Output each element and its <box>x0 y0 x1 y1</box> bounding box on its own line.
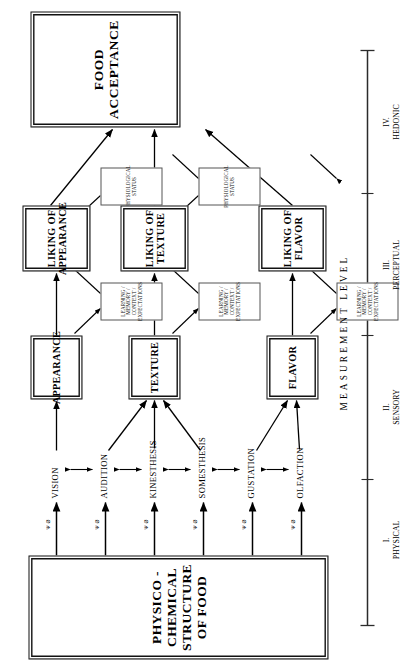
hedonic-line-1: LIKING OF <box>143 209 154 266</box>
outcome-line-1: FOOD <box>90 48 105 89</box>
modifier-line-1: LEARNING / MEMORY / <box>217 286 229 316</box>
hedonic-box-liking-flavor: LIKING OF FLAVOR <box>258 205 326 271</box>
modifier-box-learning-texture: LEARNING / MEMORY / CONTEXT / EXPECTATIO… <box>198 282 260 320</box>
outcome-box-food-acceptance: FOOD ACCEPTANCE <box>30 11 180 127</box>
modifier-line-1: PHYSIOLOGICAL <box>124 165 130 208</box>
vision-symbol: Ψ Ø <box>44 519 50 529</box>
measurement-level-title: MEASUREMENT LEVEL <box>338 254 348 410</box>
hedonic-label-liking-texture: LIKING OF TEXTURE <box>143 207 166 268</box>
gustation-symbol: Ψ Ø <box>240 519 246 529</box>
sense-label-olfaction: OLFACTION <box>294 447 304 498</box>
hedonic-line-1: LIKING OF <box>45 209 56 266</box>
modifier-label-learning-texture: LEARNING / MEMORY / CONTEXT / EXPECTATIO… <box>218 280 241 323</box>
source-line-1: PHYSICO - <box>148 571 163 644</box>
measurement-axis <box>360 50 374 625</box>
sense-label-vision: VISION <box>49 467 59 498</box>
modifier-box-physiological-appearance: PHYSIOLOGICAL STATUS <box>100 167 162 205</box>
audition-symbol: Ψ Ø <box>93 519 99 529</box>
scale-numeral-i: I. <box>381 537 390 542</box>
scale-numeral-iv: IV. <box>381 117 390 126</box>
outcome-line-2: ACCEPTANCE <box>105 20 120 119</box>
perceptual-box-appearance: APPEARANCE <box>30 335 82 399</box>
modifier-line-1: LEARNING / MEMORY / <box>119 286 131 316</box>
scale-name-iv: HEDONIC <box>391 104 400 140</box>
sense-label-kinesthesis: KINESTHESIS <box>147 440 157 498</box>
hedonic-line-2: APPEARANCE <box>56 201 67 274</box>
perceptual-label-flavor: FLAVOR <box>286 343 297 390</box>
scale-label-level-iii: III. PERCEPTUAL <box>381 212 401 317</box>
source-box-label: PHYSICO - CHEMICAL STRUCTURE OF FOOD <box>148 562 208 653</box>
scale-name-iii: PERCEPTUAL <box>391 240 400 290</box>
scale-name-ii: SENSORY <box>391 389 400 425</box>
hedonic-label-liking-flavor: LIKING OF FLAVOR <box>281 207 304 268</box>
source-line-4: OF FOOD <box>193 575 208 638</box>
source-line-2: CHEMICAL <box>163 568 178 647</box>
modifier-label-physiological-appearance: PHYSIOLOGICAL STATUS <box>125 163 136 210</box>
hedonic-label-liking-appearance: LIKING OF APPEARANCE <box>45 199 68 276</box>
somesthesis-symbol: Ψ Ø <box>191 519 197 529</box>
modifier-line-1: LEARNING / MEMORY / <box>355 286 367 316</box>
perceptual-label-texture: TEXTURE <box>148 339 159 394</box>
olfaction-symbol: Ψ Ø <box>289 519 295 529</box>
scale-name-i: PHYSICAL <box>391 520 400 559</box>
kinesthesis-symbol: Ψ Ø <box>142 519 148 529</box>
scale-numeral-ii: II. <box>381 403 390 410</box>
modifier-line-2: CONTEXT / EXPECTATIONS <box>366 282 378 321</box>
hedonic-box-liking-appearance: LIKING OF APPEARANCE <box>22 205 90 271</box>
modifier-line-2: CONTEXT / EXPECTATIONS <box>130 282 142 321</box>
scale-label-level-iv: IV. HEDONIC <box>381 69 401 174</box>
scale-numeral-iii: III. <box>381 260 390 270</box>
hedonic-line-2: TEXTURE <box>154 212 165 263</box>
perceptual-label-appearance: APPEARANCE <box>50 328 61 405</box>
outcome-label-food-acceptance: FOOD ACCEPTANCE <box>90 18 120 121</box>
sense-label-somesthesis: SOMESTHESIS <box>196 436 206 498</box>
source-box-structure-of-food: PHYSICO - CHEMICAL STRUCTURE OF FOOD <box>28 555 328 659</box>
modifier-line-2: STATUS <box>130 176 136 195</box>
source-line-3: STRUCTURE <box>178 564 193 651</box>
hedonic-line-1: LIKING OF <box>281 209 292 266</box>
perceptual-box-texture: TEXTURE <box>128 335 180 399</box>
modifier-line-2: STATUS <box>228 176 234 195</box>
perceptual-box-flavor: FLAVOR <box>266 335 318 399</box>
modifier-label-learning-flavor: LEARNING / MEMORY / CONTEXT / EXPECTATIO… <box>356 280 379 323</box>
hedonic-line-2: FLAVOR <box>292 216 303 259</box>
scale-label-level-ii: II. SENSORY <box>381 354 401 459</box>
modifier-label-physiological-texture: PHYSIOLOGICAL STATUS <box>223 163 234 210</box>
sense-label-audition: AUDITION <box>98 453 108 498</box>
modifier-box-learning-appearance: LEARNING / MEMORY / CONTEXT / EXPECTATIO… <box>100 282 162 320</box>
modifier-label-learning-appearance: LEARNING / MEMORY / CONTEXT / EXPECTATIO… <box>120 280 143 323</box>
modifier-line-2: CONTEXT / EXPECTATIONS <box>228 282 240 321</box>
modifier-box-physiological-texture: PHYSIOLOGICAL STATUS <box>198 167 260 205</box>
hedonic-box-liking-texture: LIKING OF TEXTURE <box>120 205 188 271</box>
sense-label-gustation: GUSTATION <box>245 447 255 498</box>
scale-label-level-i: I. PHYSICAL <box>381 487 401 592</box>
modifier-line-1: PHYSIOLOGICAL <box>222 165 228 208</box>
